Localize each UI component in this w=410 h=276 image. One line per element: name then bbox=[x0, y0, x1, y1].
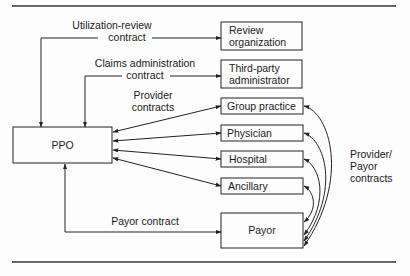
provider-contracts-label-line1: Provider bbox=[133, 89, 173, 101]
provider-payor-label-line2: Payor bbox=[350, 160, 378, 172]
physician-payor-edge bbox=[304, 133, 326, 241]
utilization-review-label-line2: contract bbox=[108, 31, 145, 43]
payor-node: Payor bbox=[221, 213, 303, 248]
payor-contract-edge: Payor contract bbox=[65, 164, 221, 232]
claims-admin-label-line1: Claims administration bbox=[95, 57, 196, 69]
review-organization-node: Review organization bbox=[221, 22, 302, 50]
ancillary-node: Ancillary bbox=[221, 178, 303, 194]
tpa-label-line1: Third-party bbox=[229, 62, 281, 74]
payor-contract-label: Payor contract bbox=[111, 215, 179, 227]
provider-payor-label-line3: contracts bbox=[350, 172, 393, 184]
provider-contracts-label-line2: contracts bbox=[132, 101, 175, 113]
ancillary-label: Ancillary bbox=[228, 180, 268, 192]
hospital-label: Hospital bbox=[229, 153, 267, 165]
provider-payor-edges bbox=[304, 106, 332, 246]
review-organization-label-line2: organization bbox=[229, 36, 286, 48]
hospital-node: Hospital bbox=[221, 151, 303, 167]
ppo-contract-diagram: PPO Review organization Third-party admi… bbox=[0, 0, 410, 276]
group-practice-node: Group practice bbox=[221, 98, 303, 114]
physician-node: Physician bbox=[221, 125, 303, 141]
ppo-node: PPO bbox=[13, 127, 112, 163]
ppo-physician-edge bbox=[113, 133, 221, 141]
third-party-administrator-node: Third-party administrator bbox=[221, 60, 302, 88]
ppo-ancillary-edge bbox=[113, 158, 221, 186]
ancillary-payor-edge bbox=[304, 186, 313, 222]
ppo-label: PPO bbox=[51, 139, 73, 151]
provider-payor-label-line1: Provider/ bbox=[350, 148, 392, 160]
utilization-review-label-line1: Utilization-review bbox=[72, 19, 152, 31]
group-practice-label: Group practice bbox=[227, 100, 296, 112]
payor-label: Payor bbox=[248, 224, 276, 236]
tpa-label-line2: administrator bbox=[229, 74, 290, 86]
review-organization-label-line1: Review bbox=[229, 24, 264, 36]
physician-label: Physician bbox=[227, 127, 272, 139]
claims-admin-label-line2: contract bbox=[126, 69, 163, 81]
diagram-canvas: PPO Review organization Third-party admi… bbox=[0, 0, 410, 276]
ppo-hospital-edge bbox=[113, 150, 221, 159]
